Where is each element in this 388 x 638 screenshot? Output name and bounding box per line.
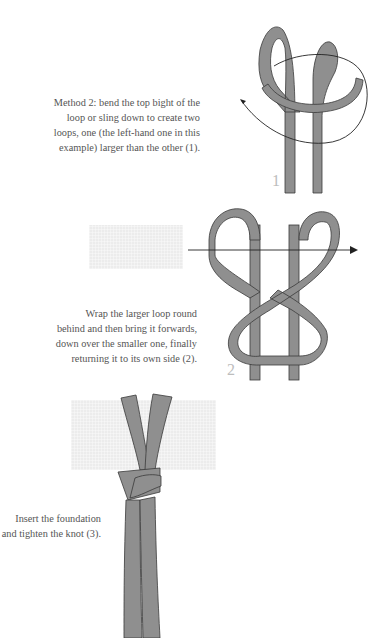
strap-left-lower (124, 500, 142, 638)
strap-right-upper (145, 394, 172, 470)
caption-step-3: Insert the foundation and tighten the kn… (0, 511, 101, 541)
strap-right-lower (140, 497, 160, 638)
step-number-1: 1 (272, 172, 280, 190)
step-number-2: 2 (227, 361, 235, 379)
caption-step-2: Wrap the larger loop round behind and th… (40, 306, 197, 366)
strap-step-3 (118, 394, 172, 638)
caption-step-1: Method 2: bend the top bight of the loop… (40, 95, 200, 155)
